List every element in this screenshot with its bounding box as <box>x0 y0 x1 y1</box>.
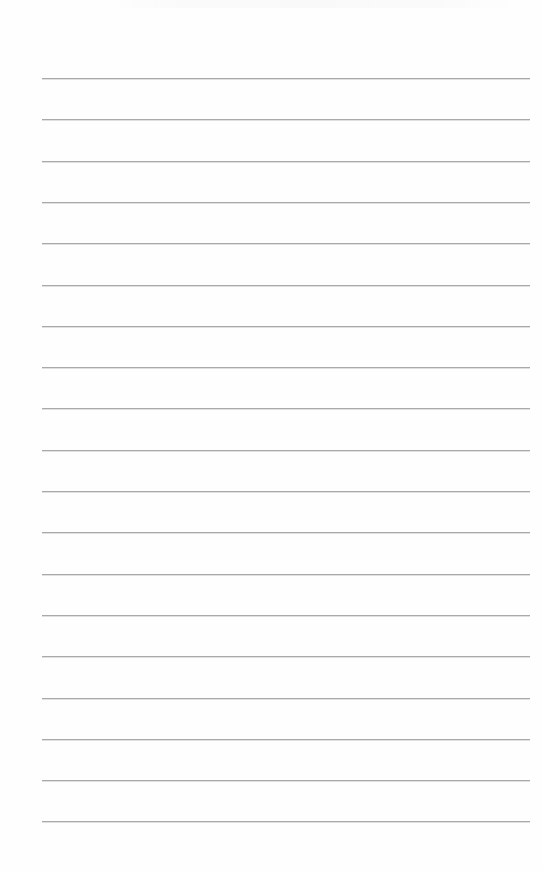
ruled-paper-page <box>0 0 543 871</box>
ruled-line <box>42 821 530 822</box>
ruled-line <box>42 326 530 327</box>
bleed-through-marks <box>100 0 520 8</box>
ruled-line <box>42 408 530 409</box>
ruled-line <box>42 698 530 699</box>
ruled-line <box>42 285 530 286</box>
ruled-line <box>42 739 530 740</box>
ruled-line <box>42 243 530 244</box>
ruled-line <box>42 532 530 533</box>
ruled-line <box>42 780 530 781</box>
ruled-line <box>42 367 530 368</box>
ruled-line <box>42 656 530 657</box>
ruled-line <box>42 119 530 120</box>
ruled-line <box>42 615 530 616</box>
ruled-line <box>42 78 530 79</box>
ruled-line <box>42 491 530 492</box>
ruled-line <box>42 574 530 575</box>
ruled-line <box>42 450 530 451</box>
ruled-line <box>42 202 530 203</box>
ruled-line <box>42 161 530 162</box>
